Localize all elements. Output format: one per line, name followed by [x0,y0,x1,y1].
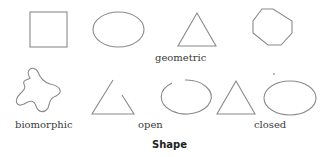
open-ellipse-shape [161,80,211,114]
triangle-shape [178,13,216,46]
label-closed: closed [254,119,286,130]
label-biomorphic: biomorphic [15,119,73,130]
closed-ellipse-shape [264,81,316,115]
biomorphic-blob-shape [17,68,61,111]
open-triangle-shape [92,80,134,114]
closed-triangle-shape [217,81,255,114]
ellipse-shape [93,12,144,47]
octagon-shape [253,9,292,45]
square-shape [30,12,67,47]
label-geometric: geometric [155,52,206,63]
label-open: open [138,119,163,130]
shape-diagram [0,0,331,157]
dot-mark [273,73,275,75]
diagram-title: Shape [152,139,187,150]
